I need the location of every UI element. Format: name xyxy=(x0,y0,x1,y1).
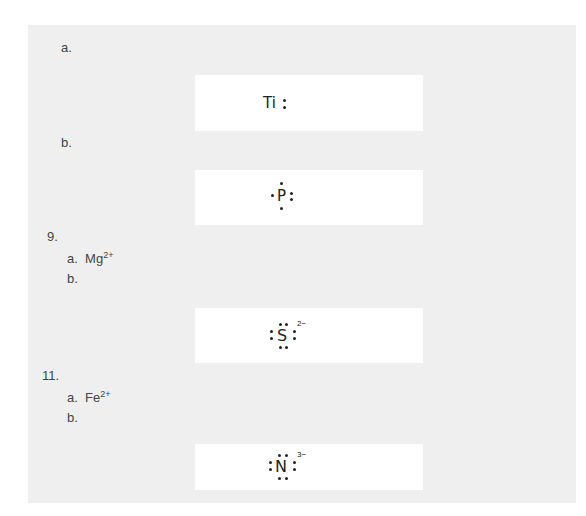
item-b-label: b. xyxy=(61,135,72,150)
lewis-box-n: N 3− xyxy=(195,444,423,490)
electron-dot xyxy=(269,461,272,464)
question-11-part-a: a. Fe2+ xyxy=(67,390,111,405)
electron-dot xyxy=(279,346,282,349)
lewis-structure-n: N 3− xyxy=(195,444,423,490)
lewis-structure-p: P xyxy=(195,170,423,225)
electron-dot xyxy=(293,461,296,464)
electron-dot xyxy=(270,337,273,340)
ion-symbol: Fe xyxy=(85,390,100,405)
lewis-structure-s: S 2− xyxy=(195,308,423,363)
part-a-prefix: a. xyxy=(67,251,78,266)
element-symbol: Ti xyxy=(263,94,276,112)
element-symbol: S xyxy=(277,326,287,345)
electron-dot xyxy=(269,468,272,471)
lewis-box-ti: Ti xyxy=(195,75,423,131)
electron-dot xyxy=(293,337,296,340)
ion-charge: 2+ xyxy=(103,250,113,260)
lewis-structure-ti: Ti xyxy=(195,75,423,131)
question-9-part-a: a. Mg2+ xyxy=(67,251,113,266)
lewis-box-p: P xyxy=(195,170,423,225)
ion-charge: 2− xyxy=(297,319,306,328)
electron-dot xyxy=(280,182,283,185)
element-symbol: P xyxy=(277,187,286,205)
electron-dot xyxy=(285,477,288,480)
ion-symbol: Mg xyxy=(85,251,103,266)
item-a-label: a. xyxy=(61,40,72,55)
lewis-box-s: S 2− xyxy=(195,308,423,363)
ion-charge: 3− xyxy=(297,450,306,459)
question-11-part-b: b. xyxy=(67,410,78,425)
question-11-number: 11. xyxy=(42,368,59,383)
electron-dot xyxy=(283,99,286,102)
electron-dot xyxy=(293,330,296,333)
part-a-prefix: a. xyxy=(67,390,78,405)
ion-charge: 2+ xyxy=(100,389,110,399)
question-9-number: 9. xyxy=(47,229,58,244)
electron-dot xyxy=(290,192,293,195)
electron-dot xyxy=(280,207,283,210)
element-symbol: N xyxy=(275,457,287,476)
electron-dot xyxy=(285,346,288,349)
electron-dot xyxy=(278,454,281,457)
electron-dot xyxy=(279,323,282,326)
electron-dot xyxy=(271,194,274,197)
electron-dot xyxy=(290,198,293,201)
electron-dot xyxy=(285,454,288,457)
electron-dot xyxy=(270,330,273,333)
electron-dot xyxy=(285,323,288,326)
question-9-part-b: b. xyxy=(67,271,78,286)
electron-dot xyxy=(293,468,296,471)
electron-dot xyxy=(283,106,286,109)
electron-dot xyxy=(278,477,281,480)
